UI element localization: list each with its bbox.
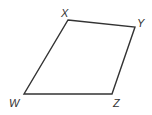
vertex-label-z: Z <box>112 97 121 109</box>
quadrilateral-wxyz <box>24 20 135 94</box>
quadrilateral-diagram: X Y Z W <box>0 0 152 115</box>
vertex-label-w: W <box>9 97 21 109</box>
vertex-label-y: Y <box>137 17 145 29</box>
vertex-label-x: X <box>60 7 69 19</box>
